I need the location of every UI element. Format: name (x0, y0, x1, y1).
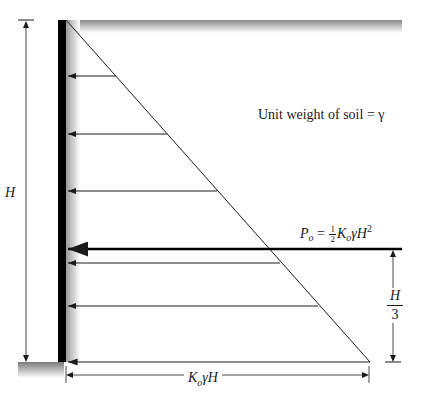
fraction-denominator: 2 (329, 235, 336, 244)
ground-shade (18, 362, 64, 378)
lever-arm-label: H 3 (386, 288, 404, 323)
half-fraction: 12 (329, 225, 336, 244)
base-pressure-label: KoγH (184, 370, 222, 388)
fraction-bar (387, 305, 403, 306)
lever-arm-denominator: 3 (392, 307, 399, 322)
diagram-canvas (0, 0, 422, 399)
lever-arm-arrow-up-icon (390, 250, 396, 257)
unit-weight-label: Unit weight of soil = γ (258, 107, 384, 123)
base-arrow-right-icon (362, 372, 369, 378)
lever-arm-arrow-down-icon (390, 355, 396, 362)
height-arrow-up-icon (23, 21, 29, 28)
soil-surface-shade (66, 20, 402, 33)
wall-height-label: H (5, 183, 15, 203)
base-gamma-h-term: γH (202, 370, 218, 385)
gamma-h-term: γH (351, 226, 367, 241)
k-symbol: K (337, 226, 346, 241)
equals-sign: = (314, 226, 329, 241)
base-arrow-left-icon (66, 372, 73, 378)
resultant-force-label: Po = 12KoγH2 (300, 223, 372, 244)
exponent: 2 (367, 223, 372, 234)
height-arrow-down-icon (23, 355, 29, 362)
base-k-symbol: K (188, 370, 197, 385)
retaining-wall (58, 20, 66, 362)
resultant-symbol: P (300, 226, 309, 241)
lever-arm-numerator: H (390, 288, 400, 303)
